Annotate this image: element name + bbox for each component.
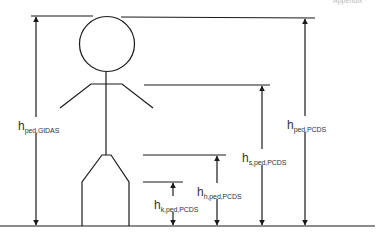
label-h-ped-gidas: hped,GIDAS [18,117,59,133]
label-h-ped-pcds: hped,PCDS [287,116,326,132]
label-h-k-ped-pcds: hk,ped,PCDS [154,196,198,212]
pedestrian-height-diagram: Appendix [0,0,377,240]
label-h-s-ped-pcds: hs,ped,PCDS [242,149,286,165]
label-h-h-ped-pcds: hh,ped,PCDS [197,183,242,199]
head [80,17,135,72]
ref-line-head-right [121,17,315,18]
legs [82,155,129,226]
pedestrian-stick-figure [60,17,153,227]
